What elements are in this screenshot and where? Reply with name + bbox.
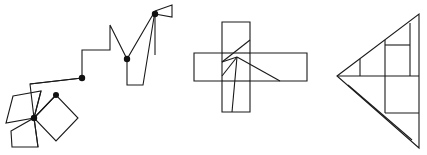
triangle-with-internal-rectangles (337, 14, 419, 148)
geometric-figures-svg (0, 0, 427, 155)
figures-layer (6, 5, 419, 148)
dot-diamond-top (53, 92, 59, 98)
internal-fan-right (237, 57, 280, 81)
dot-stair-joint (79, 75, 85, 81)
triangle-outline (337, 14, 419, 148)
cross-with-internal-lines (194, 22, 307, 112)
pinwheel-square-lower-bottom (11, 118, 38, 147)
figure-canvas (0, 0, 427, 155)
dot-flag-base (152, 11, 158, 17)
staircase-lower-shelf (30, 78, 82, 84)
pinwheel-square-diamond (34, 95, 78, 141)
dot-stair-upper (124, 56, 130, 62)
dot-pinwheel-center (31, 115, 37, 121)
staircase-with-pinwheel (6, 5, 172, 147)
internal-fan-down (232, 57, 237, 112)
